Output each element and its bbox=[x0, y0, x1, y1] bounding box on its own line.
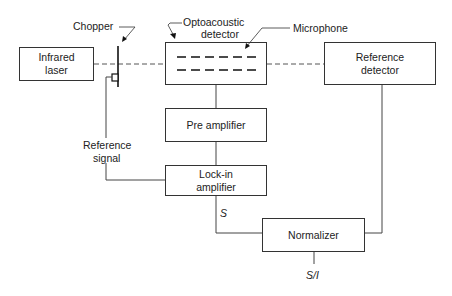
connector-reference-signal bbox=[106, 77, 112, 138]
pre-amplifier-block: Pre amplifier bbox=[165, 108, 267, 142]
chopper-callout bbox=[119, 27, 135, 40]
lockin-amplifier-label-1: Lock-in bbox=[196, 168, 236, 181]
reference-detector-block: Referencedetector bbox=[324, 42, 436, 85]
pre-amplifier-label: Pre amplifier bbox=[187, 119, 246, 132]
reference-signal-label-2: signal bbox=[93, 152, 120, 165]
reference-signal-label-1: Reference bbox=[83, 139, 131, 152]
connector-reference-signal-2 bbox=[106, 163, 165, 180]
infrared-laser-label-1: Infrared bbox=[38, 51, 74, 64]
lockin-amplifier-label-2: amplifier bbox=[196, 181, 236, 194]
infrared-laser-label-2: laser bbox=[38, 64, 74, 77]
reference-detector-label-2: detector bbox=[356, 64, 404, 77]
infrared-laser-block: Infraredlaser bbox=[19, 47, 94, 81]
output-label: S/I bbox=[306, 269, 319, 282]
connector-refdetector-normalizer bbox=[365, 85, 382, 233]
normalizer-label: Normalizer bbox=[288, 229, 339, 242]
reference-detector-label-1: Reference bbox=[356, 51, 404, 64]
optoacoustic-arrow-icon bbox=[170, 33, 176, 39]
lockin-amplifier-block: Lock-inamplifier bbox=[165, 165, 267, 196]
optoacoustic-detector-label-2: detector bbox=[201, 28, 239, 41]
optoacoustic-detector-block bbox=[165, 42, 267, 85]
chopper-label: Chopper bbox=[73, 20, 113, 33]
chopper-sensor-icon bbox=[112, 74, 118, 81]
normalizer-block: Normalizer bbox=[262, 218, 365, 252]
microphone-label: Microphone bbox=[293, 22, 348, 35]
signal-s-label: S bbox=[220, 207, 227, 220]
